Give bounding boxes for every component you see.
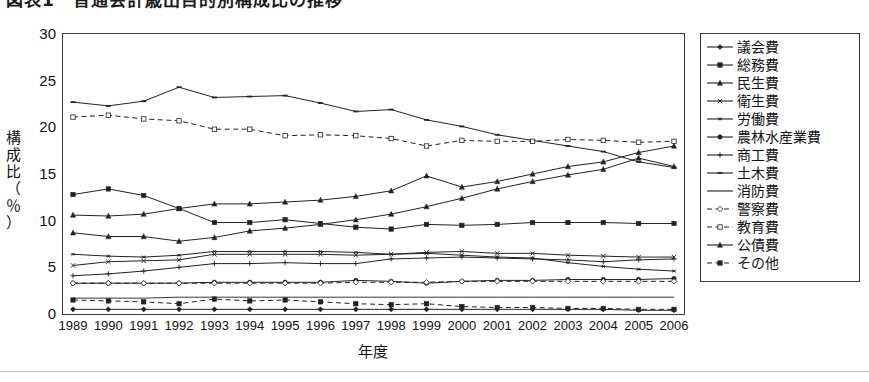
legend-marker-cross-icon (705, 94, 735, 108)
legend-marker-circle-icon (705, 130, 735, 144)
legend-item-label: その他 (737, 256, 779, 270)
page-title: 図表1 普通会計歳出目的別構成比の推移 (6, 0, 343, 11)
series-lines (63, 34, 684, 314)
legend-item-label: 教育費 (737, 220, 779, 234)
x-tick-label: 1990 (88, 318, 128, 333)
y-tick-label: 15 (22, 165, 56, 182)
x-tick-label: 1999 (407, 318, 447, 333)
y-tick-label: 20 (22, 118, 56, 135)
legend-marker-opendiamond-icon (705, 202, 735, 216)
legend-item[interactable]: 教育費 (705, 218, 859, 236)
x-tick-label: 2002 (513, 318, 553, 333)
series-10 (71, 113, 676, 148)
x-tick-label: 1996 (300, 318, 340, 333)
x-tick-label: 2004 (583, 318, 623, 333)
legend-marker-triangle-icon (705, 238, 735, 252)
legend-item[interactable]: 民生費 (705, 74, 859, 92)
x-tick-label: 1998 (371, 318, 411, 333)
legend-marker-triangle-icon (705, 76, 735, 90)
x-tick-label: 2001 (477, 318, 517, 333)
series-8 (73, 297, 674, 298)
legend-item[interactable]: 農林水産業費 (705, 128, 859, 146)
y-axis-title-char: ％ (2, 198, 24, 215)
series-6 (70, 254, 676, 278)
legend-item[interactable]: 警察費 (705, 200, 859, 218)
y-tick-label: 0 (22, 305, 56, 322)
x-tick-label: 2000 (442, 318, 482, 333)
x-tick-label: 1994 (230, 318, 270, 333)
legend-marker-square-icon (705, 256, 735, 270)
y-tick-label: 10 (22, 212, 56, 229)
page-bottom-rule (0, 371, 869, 372)
series-2 (70, 143, 676, 218)
x-tick-label: 2003 (548, 318, 588, 333)
legend-item-label: 土木費 (737, 166, 779, 180)
y-axis-title: 構成比（％） (2, 130, 24, 232)
legend: 議会費総務費民生費衛生費労働費農林水産業費商工費土木費消防費警察費教育費公債費そ… (700, 33, 860, 282)
series-0 (70, 307, 676, 313)
legend-marker-square-icon (705, 58, 735, 72)
y-axis-title-char: 成 (2, 147, 24, 164)
x-tick-label: 1997 (336, 318, 376, 333)
legend-item-label: 警察費 (737, 202, 779, 216)
legend-item[interactable]: 土木費 (705, 164, 859, 182)
chart-page: 図表1 普通会計歳出目的別構成比の推移 構成比（％） 051015202530 … (0, 0, 869, 382)
chart-title-strip: 図表1 普通会計歳出目的別構成比の推移 (0, 0, 869, 13)
legend-marker-none-icon (705, 184, 735, 198)
legend-item-label: 議会費 (737, 40, 779, 54)
legend-item-label: 労働費 (737, 112, 779, 126)
legend-item-label: 衛生費 (737, 94, 779, 108)
legend-item[interactable]: 商工費 (705, 146, 859, 164)
y-axis-title-char: （ (2, 181, 24, 198)
legend-item[interactable]: 労働費 (705, 110, 859, 128)
x-tick-label: 2006 (654, 318, 694, 333)
legend-item-label: 農林水産業費 (737, 130, 821, 144)
y-axis-title-char: 構 (2, 130, 24, 147)
x-tick-label: 2005 (619, 318, 659, 333)
series-11 (70, 155, 676, 243)
legend-item-label: 公債費 (737, 238, 779, 252)
legend-item[interactable]: 議会費 (705, 38, 859, 56)
legend-marker-plus-icon (705, 148, 735, 162)
y-tick-label: 25 (22, 72, 56, 89)
legend-item-label: 消防費 (737, 184, 779, 198)
y-axis-title-char: 比 (2, 164, 24, 181)
legend-marker-star-icon (705, 112, 735, 126)
y-tick-label: 5 (22, 258, 56, 275)
legend-item-label: 総務費 (737, 58, 779, 72)
legend-marker-dash-icon (705, 166, 735, 180)
legend-item[interactable]: 公債費 (705, 236, 859, 254)
legend-item[interactable]: 消防費 (705, 182, 859, 200)
legend-item[interactable]: 衛生費 (705, 92, 859, 110)
x-tick-label: 1992 (159, 318, 199, 333)
legend-item[interactable]: 総務費 (705, 56, 859, 74)
x-tick-label: 1989 (53, 318, 93, 333)
legend-item-label: 民生費 (737, 76, 779, 90)
legend-marker-diamond-icon (705, 40, 735, 54)
y-axis-title-char: ） (2, 215, 24, 232)
x-tick-label: 1991 (124, 318, 164, 333)
x-axis-title: 年度 (0, 340, 745, 361)
series-7 (71, 86, 677, 168)
x-tick-label: 1993 (194, 318, 234, 333)
y-tick-label: 30 (22, 25, 56, 42)
plot-area (62, 33, 685, 315)
legend-item[interactable]: その他 (705, 254, 859, 272)
legend-marker-opensquare-icon (705, 220, 735, 234)
x-tick-label: 1995 (265, 318, 305, 333)
legend-item-label: 商工費 (737, 148, 779, 162)
